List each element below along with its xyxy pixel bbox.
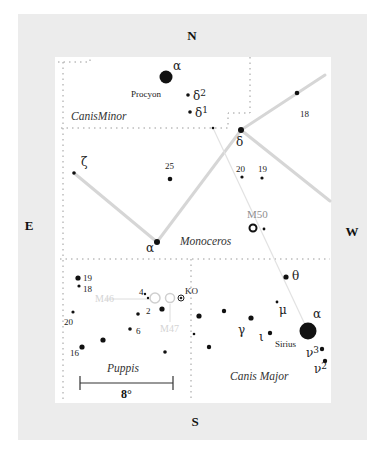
cluster-label: M46 (95, 293, 114, 304)
star-m50-star (263, 228, 266, 231)
star-label: 4 (139, 287, 144, 297)
star-label: ι (259, 330, 264, 344)
star-dot (238, 127, 244, 133)
star-pup-b (163, 350, 167, 354)
star-cmi-minor (212, 127, 215, 130)
star-dot (100, 337, 105, 342)
star-dot (248, 315, 253, 320)
star-dot (188, 110, 192, 114)
star-dot (159, 306, 164, 311)
constellation-label: Monoceros (179, 235, 232, 247)
star-dot (147, 297, 149, 299)
star-label: ζ (81, 155, 88, 169)
star-dot (222, 309, 226, 313)
star-dot (260, 176, 263, 179)
compass-east: E (25, 218, 34, 233)
star-pup-ko-near (159, 306, 164, 311)
constellation-label: CanisMinor (71, 110, 127, 122)
star-dot (300, 323, 317, 340)
target-center-icon (180, 297, 183, 300)
star-label: 6 (136, 326, 141, 336)
star-pup-4b (147, 297, 149, 299)
star-dot (320, 347, 324, 351)
star-dot (268, 331, 272, 335)
constellation-label: Canis Major (230, 370, 289, 383)
star-dot (160, 71, 173, 84)
star-label: 2 (146, 306, 151, 316)
cluster-label: M47 (160, 323, 179, 334)
star-dot (79, 344, 84, 349)
star-cma-c (207, 345, 211, 349)
star-cma-d (222, 309, 226, 313)
star-label: θ (292, 269, 299, 283)
star-label: 18 (300, 109, 310, 119)
star-label: 25 (165, 161, 175, 171)
cluster-label: KO (185, 286, 198, 296)
star-cma-b (193, 333, 196, 336)
star-label: α (146, 241, 154, 255)
star-label: 18 (83, 284, 93, 294)
star-dot (276, 301, 279, 304)
star-label: 19 (258, 164, 268, 174)
compass-south: S (191, 414, 198, 429)
star-dot (75, 275, 80, 280)
star-label: 16 (70, 348, 80, 358)
star-proper-name: Sirius (275, 339, 297, 349)
star-dot (154, 239, 160, 245)
star-dot (144, 293, 146, 295)
star-label: 19 (83, 273, 93, 283)
chart-area (55, 57, 331, 403)
star-dot (77, 284, 80, 287)
star-label: μ (279, 303, 287, 317)
compass-west: W (346, 224, 359, 239)
star-cma-a (196, 313, 201, 318)
star-dot (240, 175, 243, 178)
star-pup-a (100, 337, 105, 342)
star-label: γ (238, 323, 245, 337)
star-dot (196, 313, 201, 318)
compass-north: N (187, 28, 197, 43)
star-dot (207, 345, 211, 349)
star-dot (212, 127, 215, 130)
scale-label: 8° (121, 387, 132, 401)
star-proper-name: Procyon (131, 89, 161, 99)
cluster-label: M50 (247, 208, 268, 220)
star-dot (295, 91, 300, 96)
star-dot (72, 171, 76, 175)
star-dot (128, 327, 132, 331)
star-label: δ (236, 135, 243, 149)
star-label: α (313, 307, 321, 321)
star-chart: αProcyonδ2δ1δ18ζ252019α19182042616γιμθαS… (0, 0, 384, 457)
star-dot (136, 312, 140, 316)
star-label: 20 (236, 164, 246, 174)
star-dot (263, 228, 266, 231)
star-dot (186, 93, 190, 97)
star-dot (71, 310, 74, 313)
star-label: 20 (64, 317, 74, 327)
star-dot (283, 274, 288, 279)
star-dot (168, 177, 173, 182)
star-dot (163, 350, 167, 354)
star-label: α (173, 59, 181, 73)
constellation-label: Puppis (106, 362, 139, 375)
star-dot (193, 333, 196, 336)
